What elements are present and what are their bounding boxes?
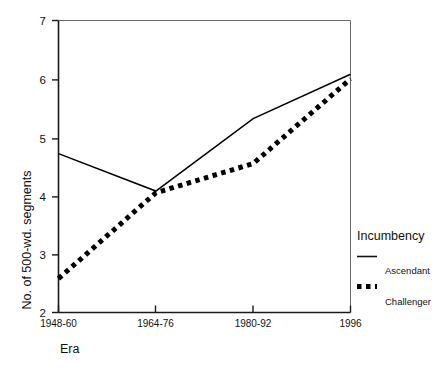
legend-title: Incumbency: [357, 229, 425, 243]
x-tick-label-3: 1996: [339, 318, 362, 329]
y-axis-tick-labels: 7 6 5 4 3 2: [40, 15, 47, 319]
x-axis-title: Era: [60, 342, 80, 356]
y-tick-label-3: 3: [40, 249, 46, 261]
legend-label-ascendant: Ascendant: [385, 265, 430, 276]
legend-label-challenger: Challenger: [385, 296, 431, 307]
line-chart: 7 6 5 4 3 2 1948-60 1964-76 1980-92 1996…: [0, 0, 448, 382]
y-tick-label-6: 6: [40, 74, 46, 86]
x-axis-tick-labels: 1948-60 1964-76 1980-92 1996: [40, 318, 362, 329]
y-tick-label-4: 4: [40, 191, 47, 203]
y-tick-label-5: 5: [40, 133, 46, 145]
x-tick-label-0: 1948-60: [40, 318, 77, 329]
series-line-challenger: [59, 79, 351, 279]
y-axis-ticks: [52, 21, 59, 313]
legend: Incumbency Ascendant Challenger: [357, 229, 431, 307]
x-axis-ticks: [59, 306, 351, 313]
series-line-ascendant: [59, 74, 351, 191]
y-axis-title: No. of 500-wd. segments: [20, 171, 34, 310]
y-tick-label-7: 7: [40, 15, 46, 27]
chart-figure: 7 6 5 4 3 2 1948-60 1964-76 1980-92 1996…: [0, 0, 448, 382]
axis-lines: [59, 21, 351, 313]
x-tick-label-1: 1964-76: [137, 318, 174, 329]
x-tick-label-2: 1980-92: [235, 318, 272, 329]
